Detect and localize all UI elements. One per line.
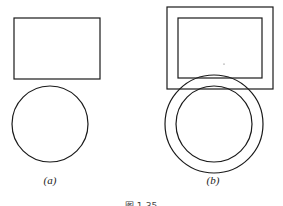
panel-b-outer-rectangle xyxy=(167,7,273,89)
panel-b-inner-rectangle xyxy=(178,18,262,78)
panel-a-rectangle xyxy=(14,18,100,79)
panel-b-center-dot xyxy=(223,63,224,64)
figure-canvas: (a) (b) 图 1-35 xyxy=(0,0,283,206)
panel-a-label: (a) xyxy=(44,174,57,187)
figure-caption: 图 1-35 xyxy=(125,201,157,206)
panel-a-circle xyxy=(12,86,88,162)
panel-b-inner-circle xyxy=(176,86,252,162)
panel-b xyxy=(165,7,273,173)
panel-b-label: (b) xyxy=(207,174,220,187)
panel-a xyxy=(12,18,100,162)
panel-b-outer-circle xyxy=(165,75,263,173)
